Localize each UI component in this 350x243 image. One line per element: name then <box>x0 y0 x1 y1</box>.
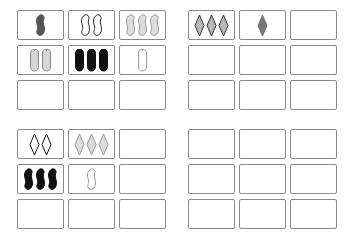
group-top-right <box>188 10 337 110</box>
diamond-striped-icon <box>86 133 97 156</box>
oval-solid-icon <box>74 49 85 72</box>
card-slot-empty[interactable] <box>290 80 337 110</box>
squiggle-striped-icon <box>149 14 160 37</box>
diamond-solid-icon <box>257 14 268 37</box>
card-slot-empty[interactable] <box>239 45 286 75</box>
squiggle-striped-icon <box>137 14 148 37</box>
card-slot-empty[interactable] <box>290 10 337 40</box>
oval-outline-icon <box>137 49 148 72</box>
card-slot-empty[interactable] <box>290 164 337 194</box>
card-slot-empty[interactable] <box>17 80 64 110</box>
group-bottom-right <box>188 129 337 229</box>
diamond-striped-icon <box>74 133 85 156</box>
diamond-striped-icon <box>218 14 229 37</box>
squiggle-outline-icon <box>80 14 91 37</box>
card-slot-empty[interactable] <box>188 129 235 159</box>
card-2-outline-diamond[interactable] <box>17 129 64 159</box>
card-2-striped-oval[interactable] <box>17 45 64 75</box>
oval-solid-icon <box>98 49 109 72</box>
card-slot-empty[interactable] <box>188 80 235 110</box>
diamond-striped-icon <box>98 133 109 156</box>
card-slot-empty[interactable] <box>68 80 115 110</box>
card-2-outline-squiggle[interactable] <box>68 10 115 40</box>
card-3-striped-squiggle[interactable] <box>119 10 166 40</box>
card-slot-empty[interactable] <box>290 45 337 75</box>
card-3-solid-oval[interactable] <box>68 45 115 75</box>
squiggle-solid-icon <box>35 168 46 191</box>
card-3-solid-squiggle[interactable] <box>17 164 64 194</box>
card-1-outline-oval[interactable] <box>119 45 166 75</box>
card-slot-empty[interactable] <box>239 129 286 159</box>
card-slot-empty[interactable] <box>119 80 166 110</box>
squiggle-solid-icon <box>35 14 46 37</box>
card-3-striped-diamond[interactable] <box>188 10 235 40</box>
diamond-striped-icon <box>206 14 217 37</box>
card-slot-empty[interactable] <box>119 199 166 229</box>
card-slot-empty[interactable] <box>68 199 115 229</box>
diamond-outline-icon <box>41 133 52 156</box>
card-slot-empty[interactable] <box>290 129 337 159</box>
card-slot-empty[interactable] <box>188 164 235 194</box>
squiggle-solid-icon <box>47 168 58 191</box>
squiggle-outline-icon <box>86 168 97 191</box>
card-slot-empty[interactable] <box>239 80 286 110</box>
diamond-outline-icon <box>29 133 40 156</box>
squiggle-outline-icon <box>92 14 103 37</box>
oval-striped-icon <box>41 49 52 72</box>
card-1-solid-diamond[interactable] <box>239 10 286 40</box>
card-slot-empty[interactable] <box>188 45 235 75</box>
card-slot-empty[interactable] <box>239 164 286 194</box>
card-slot-empty[interactable] <box>119 129 166 159</box>
group-bottom-left <box>17 129 166 229</box>
diamond-striped-icon <box>194 14 205 37</box>
card-slot-empty[interactable] <box>119 164 166 194</box>
card-slot-empty[interactable] <box>290 199 337 229</box>
group-top-left <box>17 10 166 110</box>
oval-striped-icon <box>29 49 40 72</box>
card-slot-empty[interactable] <box>239 199 286 229</box>
card-slot-empty[interactable] <box>17 199 64 229</box>
oval-solid-icon <box>86 49 97 72</box>
squiggle-solid-icon <box>23 168 34 191</box>
card-3-striped-diamond[interactable] <box>68 129 115 159</box>
card-1-solid-squiggle[interactable] <box>17 10 64 40</box>
card-slot-empty[interactable] <box>188 199 235 229</box>
squiggle-striped-icon <box>125 14 136 37</box>
card-1-outline-squiggle[interactable] <box>68 164 115 194</box>
